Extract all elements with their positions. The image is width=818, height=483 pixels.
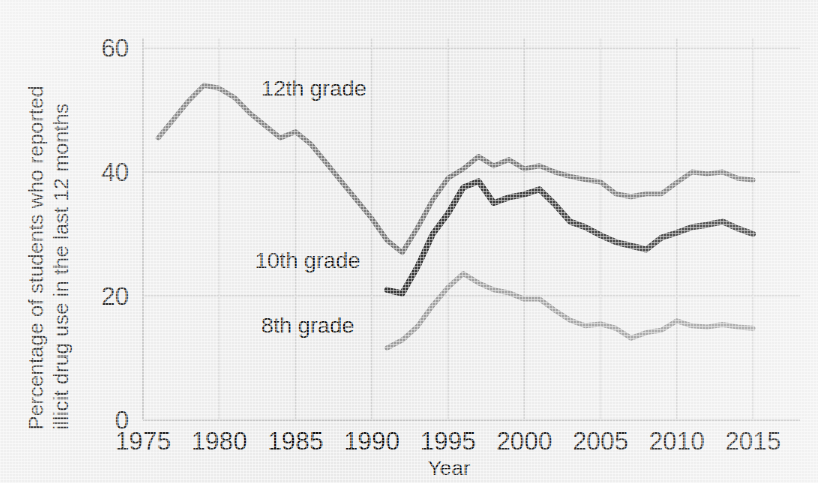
y-axis-tick-labels: 0204060: [101, 34, 129, 434]
chart-page: 0204060 19751980198519901995200020052010…: [0, 0, 818, 483]
axis-lines: [143, 38, 800, 420]
series-annotations: 12th grade10th grade8th grade: [255, 76, 366, 338]
y-axis-tick-label: 20: [101, 282, 129, 310]
x-axis-tick-labels: 197519801985199019952000200520102015: [115, 427, 781, 455]
x-axis-tick-label: 1995: [420, 427, 476, 455]
x-axis-tick-label: 2000: [496, 427, 552, 455]
y-axis-title-line-2: illicit drug use in the last 12 months: [49, 103, 72, 430]
y-axis-tick-label: 60: [101, 34, 129, 62]
x-axis-title: Year: [428, 456, 470, 479]
x-axis-tick-label: 1975: [115, 427, 171, 455]
data-line-12th-grade: [158, 85, 753, 252]
series-label-12th-grade: 12th grade: [261, 76, 366, 101]
x-axis-tick-label: 1980: [191, 427, 247, 455]
x-axis-tick-label: 2015: [725, 427, 781, 455]
series-label-10th-grade: 10th grade: [255, 248, 360, 273]
line-chart: 0204060 19751980198519901995200020052010…: [0, 0, 818, 483]
x-axis-tick-label: 1990: [344, 427, 400, 455]
data-line-8th-grade: [387, 274, 753, 348]
data-line-10th-grade: [387, 181, 753, 293]
x-axis-tick-label: 2010: [649, 427, 705, 455]
data-series-group: [158, 85, 753, 348]
x-axis-tick-label: 2005: [573, 427, 629, 455]
y-axis-tick-label: 40: [101, 158, 129, 186]
y-axis-title-line-1: Percentage of students who reported: [24, 86, 47, 430]
series-label-8th-grade: 8th grade: [261, 313, 354, 338]
x-axis-tick-label: 1985: [268, 427, 324, 455]
y-axis-title: Percentage of students who reported illi…: [24, 86, 72, 430]
